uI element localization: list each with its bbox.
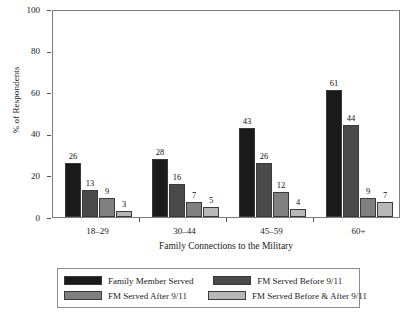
x-tick-label: 18–29 xyxy=(63,226,133,236)
bar xyxy=(65,163,81,217)
legend-label-2: FM Served After 9/11 xyxy=(108,291,187,301)
y-tick-mark xyxy=(47,176,51,177)
x-tick-mark xyxy=(139,218,140,222)
bar-group: 281675 xyxy=(152,11,219,217)
legend-label-1: FM Served Before 9/11 xyxy=(257,276,342,286)
legend-swatch-3 xyxy=(208,291,246,300)
bars-container: 2613932816754326124614497 xyxy=(53,11,399,217)
bar xyxy=(326,90,342,217)
bar xyxy=(203,207,219,217)
bar xyxy=(360,198,376,217)
x-tick-label: 45–59 xyxy=(237,226,307,236)
x-tick-label: 60+ xyxy=(324,226,394,236)
legend-row: FM Served After 9/11 FM Served Before & … xyxy=(64,288,353,303)
bar-value-label: 16 xyxy=(165,173,189,182)
bar xyxy=(239,128,255,217)
bar-value-label: 3 xyxy=(112,200,136,209)
bar-value-label: 28 xyxy=(148,148,172,157)
y-tick-mark xyxy=(47,218,51,219)
bar-value-label: 43 xyxy=(235,117,259,126)
y-tick-mark xyxy=(47,52,51,53)
y-tick-label: 20 xyxy=(18,172,40,181)
bar xyxy=(116,211,132,217)
legend-row: Family Member Served FM Served Before 9/… xyxy=(64,273,353,288)
y-tick-label: 0 xyxy=(18,214,40,223)
legend-entry-1: FM Served Before 9/11 xyxy=(213,276,353,286)
chart-legend: Family Member Served FM Served Before 9/… xyxy=(57,268,360,308)
legend-swatch-2 xyxy=(64,291,102,300)
bar xyxy=(290,209,306,217)
bar-group: 261393 xyxy=(65,11,132,217)
legend-label-3: FM Served Before & After 9/11 xyxy=(252,291,367,301)
legend-label-0: Family Member Served xyxy=(108,276,193,286)
bar-value-label: 26 xyxy=(252,152,276,161)
x-tick-mark xyxy=(313,218,314,222)
legend-entry-2: FM Served After 9/11 xyxy=(64,291,208,301)
bar-chart-figure: % of Respondents 020406080100 2613932816… xyxy=(0,0,416,317)
y-tick-label: 40 xyxy=(18,130,40,139)
bar-value-label: 44 xyxy=(339,114,363,123)
plot-area: 2613932816754326124614497 xyxy=(52,10,400,218)
y-tick-mark xyxy=(47,135,51,136)
bar-group: 4326124 xyxy=(239,11,306,217)
bar-group: 614497 xyxy=(326,11,393,217)
bar-value-label: 12 xyxy=(269,181,293,190)
y-tick-mark xyxy=(47,10,51,11)
x-tick-mark xyxy=(226,218,227,222)
bar-value-label: 61 xyxy=(322,79,346,88)
bar-value-label: 9 xyxy=(95,187,119,196)
y-tick-mark xyxy=(47,93,51,94)
legend-swatch-0 xyxy=(64,276,102,285)
bar xyxy=(186,202,202,217)
x-axis-title: Family Connections to the Military xyxy=(52,241,400,251)
bar-value-label: 7 xyxy=(373,191,397,200)
legend-entry-0: Family Member Served xyxy=(64,276,213,286)
bar-value-label: 26 xyxy=(61,152,85,161)
x-tick-label: 30–44 xyxy=(150,226,220,236)
legend-swatch-1 xyxy=(213,276,251,285)
bar-value-label: 5 xyxy=(199,196,223,205)
bar xyxy=(343,125,359,217)
bar xyxy=(377,202,393,217)
y-tick-label: 100 xyxy=(18,6,40,15)
legend-entry-3: FM Served Before & After 9/11 xyxy=(208,291,353,301)
y-tick-label: 80 xyxy=(18,47,40,56)
y-tick-label: 60 xyxy=(18,89,40,98)
bar-value-label: 4 xyxy=(286,198,310,207)
bar xyxy=(152,159,168,217)
